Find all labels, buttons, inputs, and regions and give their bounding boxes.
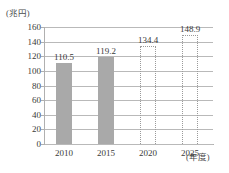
- y-tick-label: 60: [32, 96, 41, 105]
- y-tick-label: 120: [28, 52, 42, 61]
- y-tick-mark: [41, 129, 45, 130]
- y-tick-label: 140: [28, 37, 42, 46]
- bar-value-label-2020: 134.4: [138, 35, 158, 45]
- bar-value-label-2025: 148.9: [180, 24, 200, 34]
- y-tick-label: 40: [32, 110, 41, 119]
- bar-chart: (兆円) (年度) 020406080100120140160 110.5119…: [0, 0, 229, 173]
- y-tick-mark: [41, 86, 45, 87]
- y-tick-label: 20: [32, 125, 41, 134]
- bar-2025: [182, 35, 198, 144]
- bar-2010: [56, 63, 72, 144]
- bar-value-label-2015: 119.2: [96, 46, 116, 56]
- y-tick-mark: [41, 42, 45, 43]
- bar-2020: [140, 46, 156, 144]
- y-axis-unit-label: (兆円): [6, 8, 30, 18]
- gridline: [45, 144, 213, 145]
- y-tick-mark: [41, 115, 45, 116]
- x-tick-label-2010: 2010: [55, 148, 73, 158]
- y-tick-mark: [41, 71, 45, 72]
- x-tick-label-2015: 2015: [97, 148, 115, 158]
- y-tick-mark: [41, 144, 45, 145]
- y-tick-label: 80: [32, 81, 41, 90]
- y-tick-mark: [41, 56, 45, 57]
- y-tick-label: 0: [37, 140, 42, 149]
- bar-2015: [98, 57, 114, 144]
- y-tick-mark: [41, 100, 45, 101]
- y-tick-label: 100: [28, 66, 42, 75]
- plot-area: 020406080100120140160 110.5119.2134.4148…: [45, 27, 213, 144]
- x-tick-label-2020: 2020: [139, 148, 157, 158]
- bar-value-label-2010: 110.5: [54, 52, 74, 62]
- y-tick-label: 160: [28, 23, 42, 32]
- x-tick-label-2025: 2025: [181, 148, 199, 158]
- y-tick-mark: [41, 27, 45, 28]
